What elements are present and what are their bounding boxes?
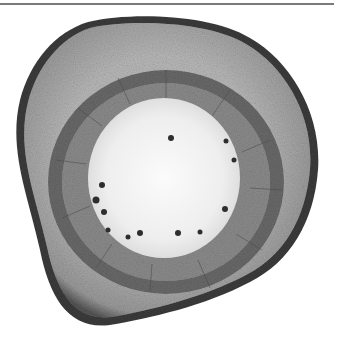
stem-cross-section xyxy=(0,0,341,345)
pith xyxy=(88,98,240,258)
